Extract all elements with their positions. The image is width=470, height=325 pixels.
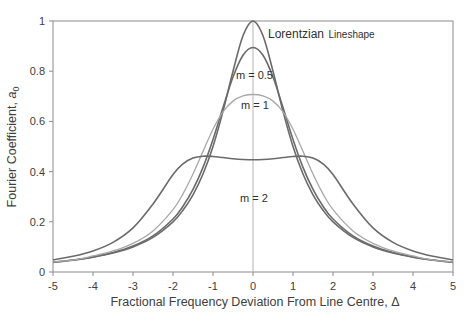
x-tick-label: -1: [208, 280, 218, 292]
x-tick-label: -5: [48, 280, 58, 292]
x-tick-label: -3: [128, 280, 138, 292]
y-tick-label: 0: [39, 266, 45, 278]
y-tick-label: 0.8: [30, 65, 45, 77]
y-tick-label: 0.6: [30, 115, 45, 127]
fourier-coefficient-chart: -5-4-3-2-1012345 00.20.40.60.81 Fraction…: [0, 0, 470, 325]
annotation-m-0-5: m = 0.5: [236, 69, 273, 81]
annotation-m-2: m = 2: [240, 192, 268, 204]
x-tick-label: -2: [168, 280, 178, 292]
x-tick-label: 0: [250, 280, 256, 292]
annotation-lorentzian-small: Lineshape: [329, 29, 376, 40]
y-tick-label: 0.4: [30, 166, 45, 178]
x-tick-label: 4: [410, 280, 416, 292]
y-axis-title-symbol: a: [5, 92, 19, 99]
x-tick-label: 5: [450, 280, 456, 292]
annotation-lorentzian-main: Lorentzian: [268, 27, 324, 41]
y-axis-ticks: 00.20.40.60.81: [30, 15, 53, 278]
x-tick-label: 1: [290, 280, 296, 292]
x-tick-label: 2: [330, 280, 336, 292]
y-tick-label: 0.2: [30, 216, 45, 228]
y-axis-title-prefix: Fourier Coefficient,: [5, 99, 19, 208]
x-axis-ticks: -5-4-3-2-1012345: [48, 272, 456, 292]
y-axis-title-subscript: 0: [11, 87, 21, 92]
annotation-m-1: m = 1: [241, 99, 269, 111]
y-axis-title: Fourier Coefficient, a0: [5, 87, 21, 208]
x-axis-title: Fractional Frequency Deviation From Line…: [110, 295, 399, 309]
x-tick-label: -4: [88, 280, 98, 292]
annotation-lorentzian: Lorentzian Lineshape: [268, 24, 375, 41]
x-tick-label: 3: [370, 280, 376, 292]
y-tick-label: 1: [39, 15, 45, 27]
